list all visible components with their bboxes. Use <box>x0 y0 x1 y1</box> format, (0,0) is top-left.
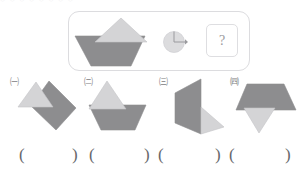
answer-slot-4-open: ( <box>229 144 235 166</box>
page-top-cutoff-strip: ○ ○ ○ ○ ○ ○ ○ ○ <box>0 0 305 10</box>
unknown-box: ? <box>206 24 238 57</box>
answer-slot-3-open: ( <box>158 144 164 166</box>
answer-slot-1-open: ( <box>19 144 25 166</box>
answer-slot-4-close[interactable]: ) <box>285 144 291 166</box>
source-triangle-shape <box>95 18 147 42</box>
rotation-dial-icon <box>161 28 189 56</box>
option-1-figure <box>8 76 84 138</box>
option-choice-2[interactable]: ㈡ <box>82 76 158 138</box>
option-3-trapezoid-shape <box>175 79 201 134</box>
answer-slot-1-close[interactable]: ) <box>72 144 78 166</box>
option-4-figure <box>228 76 304 138</box>
cutoff-ghost-text: ○ ○ ○ ○ ○ ○ ○ ○ <box>0 0 74 4</box>
option-label-2: ㈡ <box>84 78 93 87</box>
question-mark-glyph: ? <box>207 32 237 48</box>
option-3-figure <box>157 76 233 138</box>
option-2-figure <box>82 76 158 138</box>
answer-slot-2-close[interactable]: ) <box>144 144 150 166</box>
option-choice-4[interactable]: ㈣ <box>228 76 304 138</box>
answer-slot-2-open: ( <box>89 144 95 166</box>
option-label-4: ㈣ <box>230 78 239 87</box>
option-choice-1[interactable]: ㈠ <box>8 76 84 138</box>
dial-arrowhead-icon <box>185 39 188 44</box>
question-panel: ? <box>68 11 250 71</box>
answer-row: ( ) ( ) ( ) ( ) <box>0 144 305 170</box>
option-4-trapezoid-shape <box>236 84 296 110</box>
option-label-3: ㈢ <box>159 78 168 87</box>
option-choice-3[interactable]: ㈢ <box>157 76 233 138</box>
option-label-1: ㈠ <box>10 78 19 87</box>
option-2-triangle-shape <box>89 81 126 109</box>
option-3-triangle-shape <box>201 107 224 134</box>
answer-slot-3-close[interactable]: ) <box>215 144 221 166</box>
option-4-triangle-shape <box>244 108 275 133</box>
source-figure <box>73 16 161 69</box>
